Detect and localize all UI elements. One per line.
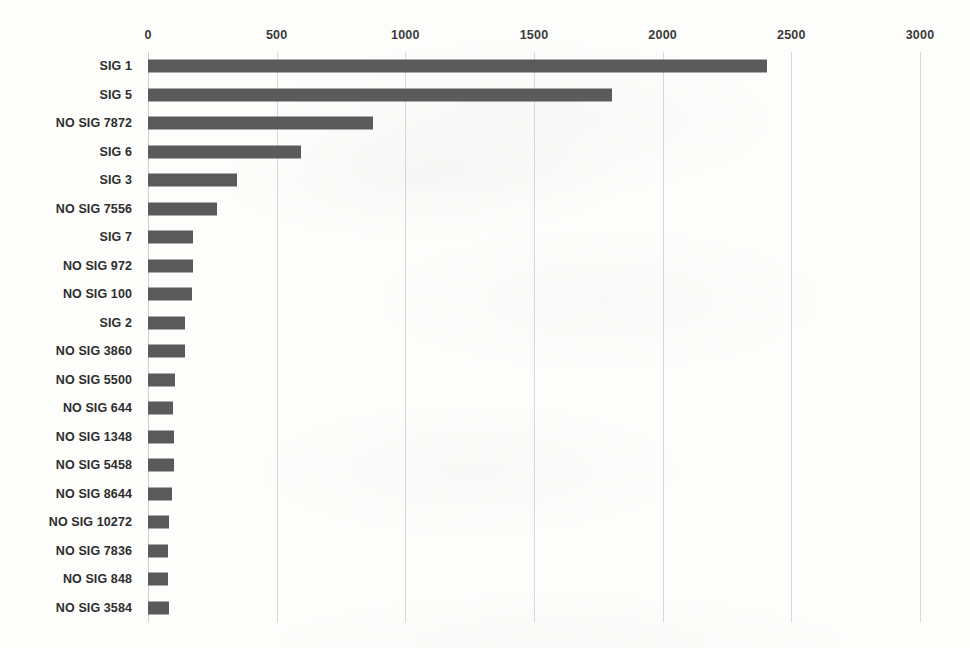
category-label: NO SIG 8644 [0, 487, 132, 501]
bar-row: NO SIG 972 [0, 252, 970, 281]
bar-row: NO SIG 7556 [0, 195, 970, 224]
bar [148, 288, 192, 301]
category-label: NO SIG 5458 [0, 458, 132, 472]
bar [148, 573, 168, 586]
bar-row: NO SIG 5500 [0, 366, 970, 395]
bar [148, 345, 185, 358]
bar-row: NO SIG 7872 [0, 109, 970, 138]
category-label: SIG 1 [0, 59, 132, 73]
bar-row: SIG 5 [0, 81, 970, 110]
category-label: NO SIG 644 [0, 401, 132, 415]
category-label: NO SIG 7556 [0, 202, 132, 216]
category-label: NO SIG 1348 [0, 430, 132, 444]
bar-row: NO SIG 7836 [0, 537, 970, 566]
bar [148, 373, 175, 386]
bar-row: NO SIG 100 [0, 280, 970, 309]
bar-row: SIG 3 [0, 166, 970, 195]
category-label: SIG 7 [0, 230, 132, 244]
bar-row: NO SIG 848 [0, 565, 970, 594]
bar [148, 601, 169, 614]
bar [148, 430, 174, 443]
bar-row: NO SIG 8644 [0, 480, 970, 509]
category-label: NO SIG 7872 [0, 116, 132, 130]
x-tick-label: 2500 [777, 28, 806, 42]
bar [148, 544, 168, 557]
x-tick-label: 1000 [391, 28, 420, 42]
category-label: NO SIG 3860 [0, 344, 132, 358]
category-label: NO SIG 3584 [0, 601, 132, 615]
bar-row: SIG 7 [0, 223, 970, 252]
bar [148, 145, 301, 158]
bar-row: SIG 6 [0, 138, 970, 167]
category-label: NO SIG 848 [0, 572, 132, 586]
bar [148, 516, 169, 529]
x-tick-label: 500 [266, 28, 287, 42]
bar-row: NO SIG 10272 [0, 508, 970, 537]
category-label: SIG 5 [0, 88, 132, 102]
bar [148, 487, 172, 500]
category-label: NO SIG 100 [0, 287, 132, 301]
bar-row: SIG 2 [0, 309, 970, 338]
x-axis-tick-labels: 050010001500200025003000 [0, 0, 970, 52]
bar [148, 259, 193, 272]
bar [148, 174, 237, 187]
category-label: SIG 2 [0, 316, 132, 330]
category-label: SIG 3 [0, 173, 132, 187]
bar-row: NO SIG 644 [0, 394, 970, 423]
bar-row: NO SIG 1348 [0, 423, 970, 452]
bar [148, 88, 612, 101]
bar [148, 60, 767, 73]
bar [148, 202, 217, 215]
bar-row: NO SIG 3584 [0, 594, 970, 623]
category-label: NO SIG 10272 [0, 515, 132, 529]
x-tick-label: 1500 [520, 28, 549, 42]
category-label: SIG 6 [0, 145, 132, 159]
category-label: NO SIG 5500 [0, 373, 132, 387]
bar [148, 316, 185, 329]
bar [148, 231, 193, 244]
bar [148, 402, 173, 415]
bar-row: NO SIG 5458 [0, 451, 970, 480]
bar [148, 459, 174, 472]
x-tick-label: 3000 [906, 28, 935, 42]
bar-rows: SIG 1SIG 5NO SIG 7872SIG 6SIG 3NO SIG 75… [0, 52, 970, 622]
category-label: NO SIG 7836 [0, 544, 132, 558]
bar-row: SIG 1 [0, 52, 970, 81]
x-tick-label: 2000 [648, 28, 677, 42]
bar-row: NO SIG 3860 [0, 337, 970, 366]
bar [148, 117, 373, 130]
bar-chart: 050010001500200025003000 SIG 1SIG 5NO SI… [0, 0, 970, 648]
category-label: NO SIG 972 [0, 259, 132, 273]
x-tick-label: 0 [144, 28, 151, 42]
